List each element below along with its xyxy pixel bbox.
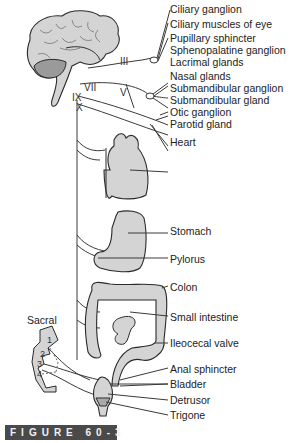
sacral-segment-1: 1 (47, 335, 52, 345)
label-anal-sphincter: Anal sphincter (170, 363, 237, 375)
label-ileocecal-valve: Ileocecal valve (170, 337, 239, 349)
nerve-label-v: V (120, 88, 127, 98)
bladder-illustration (94, 377, 169, 416)
label-nasal-glands: Nasal glands (170, 70, 231, 82)
sacral-segment-3: 3 (37, 359, 42, 369)
label-pylorus: Pylorus (170, 253, 205, 265)
label-colon: Colon (170, 281, 197, 293)
nerve-label-vii: VII (84, 83, 96, 93)
nerve-label-iii: III (120, 57, 128, 67)
label-bladder: Bladder (170, 378, 206, 390)
label-sphenopalatine-ganglion: Sphenopalatine ganglion (170, 44, 286, 56)
label-ciliary-ganglion: Ciliary ganglion (170, 3, 242, 15)
sacral-segment-2: 2 (40, 349, 45, 359)
sacral-label: Sacral (27, 314, 57, 326)
colon-illustration (85, 282, 168, 386)
label-submandibular-ganglion: Submandibular ganglion (170, 82, 283, 94)
label-pupillary-sphincter: Pupillary sphincter (170, 32, 256, 44)
parasympathetic-diagram (0, 0, 295, 443)
label-stomach: Stomach (170, 225, 211, 237)
label-heart: Heart (170, 136, 196, 148)
label-submandibular-gland: Submandibular gland (170, 94, 269, 106)
label-detrusor: Detrusor (170, 394, 210, 406)
heart-illustration (104, 134, 168, 199)
nerve-label-x: X (76, 103, 83, 113)
figure-caption: FIGURE 60-3 (5, 425, 117, 440)
label-small-intestine: Small intestine (170, 311, 238, 323)
label-parotid-gland: Parotid gland (170, 118, 232, 130)
label-ciliary-muscles: Ciliary muscles of eye (170, 18, 272, 30)
label-lacrimal-glands: Lacrimal glands (170, 56, 244, 68)
stomach-illustration (94, 211, 168, 272)
sacral-segment-4: 4 (37, 369, 42, 379)
label-trigone: Trigone (170, 409, 205, 421)
label-otic-ganglion: Otic ganglion (170, 106, 231, 118)
